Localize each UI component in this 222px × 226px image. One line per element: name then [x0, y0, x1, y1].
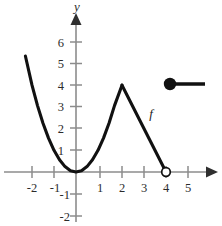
y-tick-label--2: -2 [60, 210, 70, 224]
tick-labels-group: -2 -1 1 2 3 4 5 6 5 4 3 2 1 -1 -2 [27, 36, 191, 225]
x-tick-label-1: 1 [97, 181, 103, 195]
y-tick-label-5: 5 [58, 57, 64, 71]
x-tick-label-2: 2 [119, 181, 125, 195]
y-tick-label-4: 4 [58, 79, 65, 93]
x-tick-label-3: 3 [141, 181, 147, 195]
x-axis-arrowhead [206, 167, 218, 178]
line-branch [122, 85, 166, 172]
x-tick-label-5: 5 [185, 181, 191, 195]
graph-figure: -2 -1 1 2 3 4 5 6 5 4 3 2 1 -1 -2 y f [0, 0, 222, 226]
y-tick-label-2: 2 [58, 122, 64, 136]
x-tick-label--2: -2 [27, 181, 37, 195]
parabola-branch [25, 56, 122, 172]
y-axis-arrowhead [71, 13, 82, 25]
y-axis-label: y [72, 0, 80, 14]
x-tick-label-4: 4 [163, 181, 170, 195]
y-tick-label-6: 6 [58, 36, 64, 50]
function-curve-group [25, 56, 166, 172]
y-tick-label--1: -1 [60, 188, 70, 202]
function-label: f [149, 106, 155, 121]
legend-sample-marker [164, 78, 205, 90]
y-tick-label-3: 3 [58, 100, 64, 114]
open-circle-endpoint-icon [162, 168, 171, 177]
